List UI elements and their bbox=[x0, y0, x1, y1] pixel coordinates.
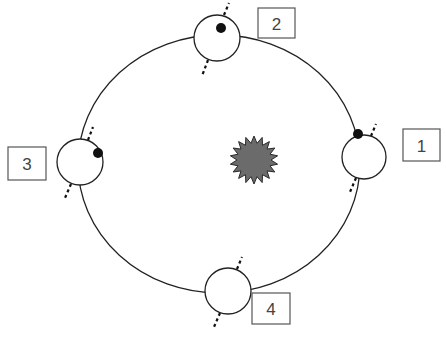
orbit-diagram: 1 2 3 4 bbox=[0, 0, 446, 337]
axis-tick-bottom bbox=[65, 184, 71, 198]
axis-tick-bottom bbox=[350, 178, 356, 192]
orbit-path bbox=[78, 35, 360, 293]
axis-tick-bottom bbox=[202, 60, 208, 76]
planet-circle bbox=[342, 135, 386, 179]
planet-position-1: 1 bbox=[342, 124, 440, 192]
planet-circle bbox=[205, 268, 251, 314]
axis-tick-top bbox=[224, 3, 229, 15]
planet-position-3: 3 bbox=[8, 127, 103, 198]
planet-dot bbox=[353, 129, 363, 139]
label-2: 2 bbox=[272, 15, 281, 34]
planet-position-4: 4 bbox=[205, 257, 290, 327]
planet-circle bbox=[57, 139, 103, 185]
label-4: 4 bbox=[266, 300, 275, 319]
planet-position-2: 2 bbox=[194, 3, 295, 76]
label-1: 1 bbox=[417, 137, 426, 156]
planet-dot bbox=[216, 23, 226, 33]
planet-dot bbox=[93, 148, 103, 158]
axis-tick-top bbox=[88, 127, 93, 140]
sun-icon bbox=[230, 136, 277, 184]
planet-circle bbox=[194, 15, 240, 61]
axis-tick-bottom bbox=[214, 313, 220, 327]
axis-tick-top bbox=[371, 124, 376, 136]
label-3: 3 bbox=[22, 155, 31, 174]
axis-tick-top bbox=[237, 257, 242, 269]
